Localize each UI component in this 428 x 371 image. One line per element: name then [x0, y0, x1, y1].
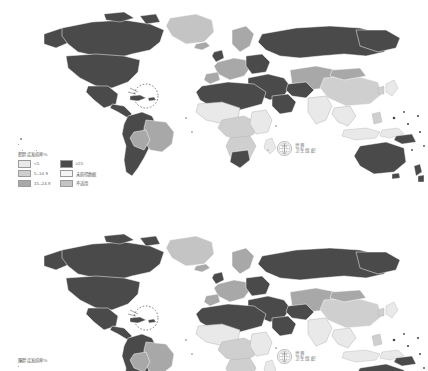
legend-item: ≥25: [60, 160, 97, 168]
who-logo: 世界 卫生组织: [277, 349, 316, 364]
legend-item: 未获得数据: [60, 170, 97, 178]
legend-item: 不适用: [60, 180, 97, 188]
map-islet-marker: [20, 138, 22, 140]
legend-label: 15–24.9: [34, 181, 51, 186]
legend-item: 15–24.9: [18, 180, 51, 188]
world-map-panel-2: [0, 222, 428, 371]
world-map-panel-1: 世界 卫生组织 肥胖症发病率% <5 5–14.9: [0, 0, 428, 200]
legend-swatch: [60, 170, 73, 178]
legend-swatch: [18, 180, 31, 188]
legend-swatch: [18, 160, 31, 168]
legend-item: 5–14.9: [18, 170, 51, 178]
figure-page: 世界 卫生组织 肥胖症发病率% <5 5–14.9: [0, 0, 428, 371]
legend-label: <5: [34, 161, 39, 166]
who-logo: 世界 卫生组织: [277, 141, 316, 156]
map-legend-2: 肥胖症发病率%: [18, 357, 48, 366]
who-emblem-icon: [277, 141, 292, 156]
legend-columns: <5 5–14.9 15–24.9 ≥25: [18, 160, 96, 187]
who-wordmark-line2: 卫生组织: [295, 149, 316, 154]
legend-column-left: <5 5–14.9 15–24.9: [18, 160, 51, 187]
legend-swatch: [60, 160, 73, 168]
legend-label: 不适用: [76, 180, 88, 186]
legend-item: <5: [18, 160, 51, 168]
who-wordmark: 世界 卫生组织: [295, 352, 316, 362]
legend-label: 5–14.9: [34, 171, 48, 176]
map-legend-1: 肥胖症发病率% <5 5–14.9 15–24.9: [18, 151, 96, 187]
who-wordmark: 世界 卫生组织: [295, 144, 316, 154]
who-wordmark-line2: 卫生组织: [295, 357, 316, 362]
legend-swatch: [18, 170, 31, 178]
legend-title: 肥胖症发病率%: [18, 151, 96, 157]
legend-label: 未获得数据: [76, 171, 97, 177]
legend-column-right: ≥25 未获得数据 不适用: [60, 160, 97, 187]
who-emblem-icon: [277, 349, 292, 364]
world-map-graphic-2: [0, 222, 428, 371]
legend-swatch: [60, 180, 73, 188]
legend-title: 肥胖症发病率%: [18, 357, 48, 363]
legend-label: ≥25: [76, 161, 84, 166]
